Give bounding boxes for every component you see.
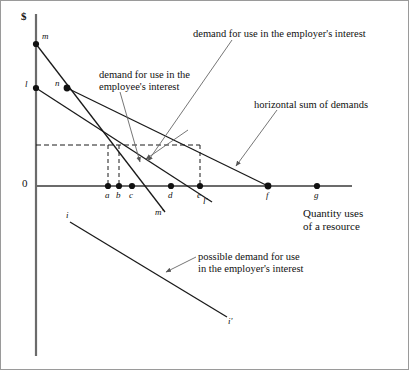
curve-label-n: n [55,78,60,88]
axis-point-label-g: g [314,190,319,200]
axis-point-label-a: a [105,190,110,200]
axis-point-label-b: b [116,190,121,200]
point-d [168,183,174,189]
y-axis-label: $ [21,10,27,22]
diagram-canvas [0,0,409,370]
axis-point-label-c: c [129,190,133,200]
x-axis-caption-line1: Quantity uses [303,207,363,219]
point-m [33,41,39,47]
point-g [314,183,320,189]
point-f [265,183,272,190]
curve-label-l-prime: l' [203,196,207,206]
annotation-employer-demand: demand for use in the employer's interes… [193,28,366,40]
origin-label: 0 [22,177,28,189]
annotation-employee-demand-line1: demand for use in the [99,69,190,81]
point-n [64,85,71,92]
curve-label-m: m [42,31,49,41]
axis-point-label-f: f [266,190,269,200]
x-axis-caption-line2: of a resource [303,220,360,232]
point-c [129,183,135,189]
curve-label-l: l [25,79,28,89]
axis-point-label-e: e [197,190,201,200]
point-e [197,183,203,189]
point-a [105,183,111,189]
annotation-employee-demand-line2: employee's interest [99,81,179,93]
demand-curve-diagram: $ 0 Quantity uses of a resource m l n m'… [0,0,409,370]
curve-label-i-prime: i' [228,316,232,326]
annotation-possible-demand-line2: in the employer's interest [198,263,303,275]
curve-label-i: i [66,210,69,220]
annotation-horizontal-sum: horizontal sum of demands [254,99,368,111]
curve-label-m-prime: m' [155,207,163,217]
annotation-possible-demand-line1: possible demand for use [198,251,300,263]
axis-point-label-d: d [168,190,173,200]
point-b [116,183,122,189]
point-l [33,85,39,91]
